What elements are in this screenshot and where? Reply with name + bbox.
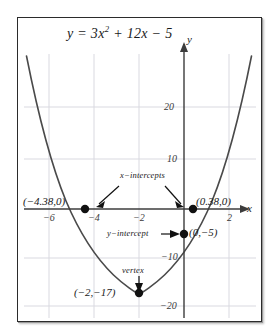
y-intercept-annotation: y−intercept (107, 229, 149, 238)
arrow-left-xint (99, 186, 119, 204)
x-tick-minus6: −6 (43, 213, 55, 223)
vertex-point-label: (−2,−17) (74, 287, 115, 298)
graph-figure-frame: y = 3x2 + 12x − 5 y x −6 −4 −2 2 20 10 −… (17, 17, 262, 322)
axis-lines (24, 44, 240, 318)
y-tick-minus20: −20 (160, 301, 177, 311)
right-x-intercept-label: (0.38,0) (196, 196, 231, 207)
x-axis-label: x (247, 203, 252, 214)
point-y-intercept (180, 230, 188, 238)
arrow-right-xint (165, 186, 181, 204)
grid-lines (24, 54, 256, 318)
y-intercept-point-label: (0,−5) (189, 227, 218, 238)
x-intercepts-annotation: x−intercepts (120, 171, 165, 180)
equation-title: y = 3x2 + 12x − 5 (67, 25, 172, 41)
y-tick-10: 10 (167, 154, 177, 164)
y-tick-minus10: −10 (161, 252, 178, 262)
y-tick-20: 20 (164, 102, 174, 112)
y-axis-label: y (187, 34, 192, 45)
x-tick-minus2: −2 (133, 213, 145, 223)
left-x-intercept-label: (−4.38,0) (23, 196, 65, 207)
point-vertex (135, 289, 143, 297)
x-tick-minus4: −4 (88, 213, 100, 223)
vertex-annotation: vertex (122, 266, 144, 275)
x-tick-2: 2 (227, 213, 232, 223)
